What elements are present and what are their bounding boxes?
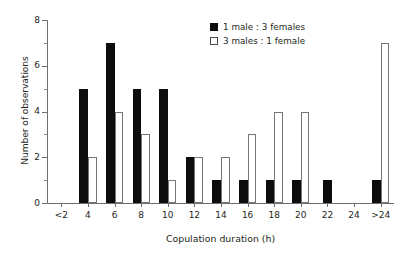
x-axis-title: Copulation duration (h) [47,233,394,244]
bar-filled [186,157,195,203]
bar-filled [323,180,332,203]
x-tick [354,203,355,207]
y-tick-minor [44,180,47,181]
category-group [75,20,102,203]
x-tick [141,203,142,207]
bar-filled [266,180,275,203]
bar-pair [314,20,341,203]
category-group [341,20,368,203]
x-tick [274,203,275,207]
x-tick [327,203,328,207]
y-tick-minor [44,43,47,44]
legend-swatch-open-icon [210,37,218,45]
y-tick-label: 2 [14,153,40,162]
bar-open [141,134,150,203]
y-tick-minor [44,89,47,90]
bar-open [248,134,257,203]
bar-filled [212,180,221,203]
legend-swatch-filled-icon [210,23,218,31]
legend-label-open: 3 males : 1 female [223,34,305,48]
category-group [154,20,181,203]
x-tick [194,203,195,207]
bar-filled [372,180,381,203]
y-tick-label: 0 [14,199,40,208]
category-group [101,20,128,203]
bar-open [274,112,283,204]
x-tick [381,203,382,207]
category-group [48,20,75,203]
bar-filled [106,43,115,203]
y-tick-label: 8 [14,16,40,25]
x-tick [88,203,89,207]
bar-open [88,157,97,203]
bar-open [115,112,124,204]
bar-pair [181,20,208,203]
x-tick [115,203,116,207]
category-group [128,20,155,203]
bar-pair [367,20,394,203]
category-group [314,20,341,203]
x-tick [168,203,169,207]
category-group [367,20,394,203]
y-tick-minor [44,134,47,135]
category-group [181,20,208,203]
bar-filled [133,89,142,203]
bar-open [221,157,230,203]
bar-pair [341,20,368,203]
x-tick-label: >24 [361,210,401,220]
bar-pair [128,20,155,203]
bar-filled [292,180,301,203]
bar-pair [101,20,128,203]
legend-entry-open: 3 males : 1 female [210,34,305,48]
bar-filled [159,89,168,203]
y-tick-label: 6 [14,61,40,70]
y-tick-label: 4 [14,107,40,116]
y-tick-major [42,66,47,67]
bar-pair [48,20,75,203]
chart-legend: 1 male : 3 females 3 males : 1 female [210,20,305,48]
legend-entry-filled: 1 male : 3 females [210,20,305,34]
x-tick [221,203,222,207]
y-tick-major [42,20,47,21]
legend-label-filled: 1 male : 3 females [223,20,305,34]
bar-pair [154,20,181,203]
bar-filled [79,89,88,203]
x-tick [301,203,302,207]
bar-open [194,157,203,203]
bar-open [168,180,177,203]
bar-chart-figure: Number of observations 02468 Copulation … [0,0,401,255]
bar-filled [239,180,248,203]
y-tick-major [42,157,47,158]
x-tick [61,203,62,207]
bar-pair [75,20,102,203]
x-tick [248,203,249,207]
bar-open [301,112,310,204]
y-tick-major [42,112,47,113]
bar-open [381,43,390,203]
